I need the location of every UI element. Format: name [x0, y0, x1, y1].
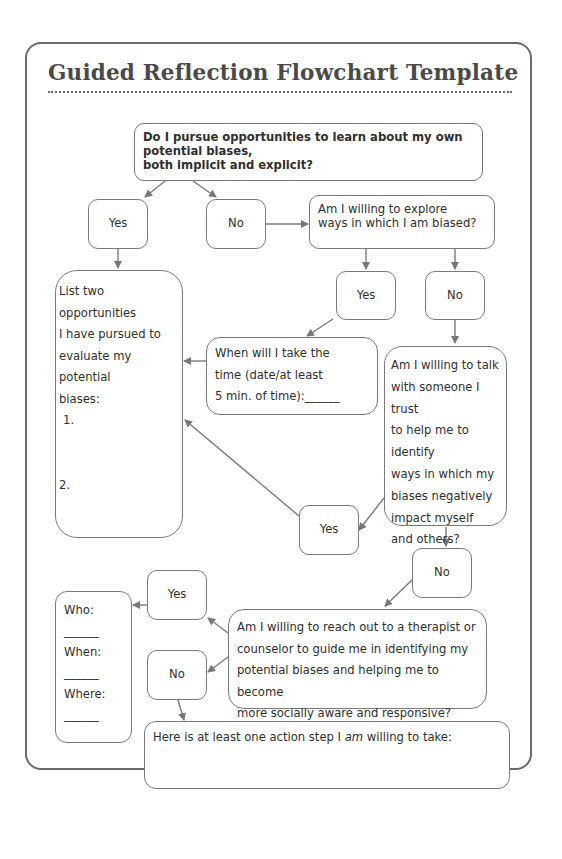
arrow-q1-no [193, 181, 216, 197]
q4-no-box: No [147, 650, 207, 700]
question-1-line1: Do I pursue opportunities to learn about… [143, 131, 476, 159]
q3-line-6: impact myself [391, 508, 500, 530]
q2-yes-label: Yes [357, 289, 376, 303]
arrow-q3yes-list [185, 420, 299, 516]
q1-yes-box: Yes [88, 199, 148, 249]
q3-line-4: ways in which my [391, 464, 500, 486]
q1-no-label: No [228, 217, 244, 231]
action-prefix: Here is at least one action step I [153, 730, 345, 744]
q4-line-3: potential biases and helping me to becom… [237, 660, 480, 703]
question-1-box: Do I pursue opportunities to learn about… [134, 123, 483, 181]
q2-no-label: No [447, 289, 463, 303]
q3-line-2: with someone I trust [391, 377, 500, 421]
where-blank[interactable]: ______ [64, 705, 125, 726]
when-blank[interactable]: ______ [64, 663, 125, 684]
arrow-yes-when [307, 319, 333, 336]
action-step-box[interactable]: Here is at least one action step I am wi… [144, 721, 510, 789]
question-2-line2: ways in which I am biased? [318, 217, 488, 231]
when-line-1: When will I take the [215, 343, 371, 365]
who-when-where-box: Who: ______ When: ______ Where: ______ [55, 591, 132, 743]
list-line-3: evaluate my potential [59, 346, 176, 389]
when-line-2: time (date/at least [215, 365, 371, 387]
question-3-box: Am I willing to talk with someone I trus… [384, 346, 507, 526]
q2-no-box: No [425, 271, 485, 320]
who-label: Who: [64, 600, 125, 621]
list-line-4: biases: [59, 389, 176, 411]
q1-no-box: No [206, 199, 266, 249]
q3-yes-label: Yes [320, 523, 339, 537]
q3-no-box: No [412, 548, 472, 598]
arrow-q1-yes [145, 181, 165, 197]
q3-line-5: biases negatively [391, 486, 500, 508]
opportunities-list-box: List two opportunities I have pursued to… [55, 270, 183, 538]
arrow-q4-no [208, 657, 228, 672]
q3-line-3: to help me to identify [391, 420, 500, 464]
when-box: When will I take the time (date/at least… [206, 337, 378, 415]
q4-line-1: Am I willing to reach out to a therapist… [237, 617, 480, 639]
when-label: When: [64, 642, 125, 663]
q3-yes-box: Yes [299, 505, 359, 555]
question-2-line1: Am I willing to explore [318, 203, 488, 217]
list-item-1: 1. [59, 410, 176, 432]
question-1-line2: both implicit and explicit? [143, 159, 476, 173]
q1-yes-label: Yes [109, 217, 128, 231]
action-emphasis: am [345, 730, 363, 744]
question-2-box: Am I willing to explore ways in which I … [309, 195, 495, 249]
list-line-2: I have pursued to [59, 324, 176, 346]
arrow-no-q4 [385, 580, 412, 606]
question-4-box: Am I willing to reach out to a therapist… [228, 609, 487, 709]
q3-no-label: No [434, 566, 450, 580]
q4-line-2: counselor to guide me in identifying my [237, 639, 480, 661]
q4-yes-label: Yes [168, 588, 187, 602]
q3-line-1: Am I willing to talk [391, 355, 500, 377]
list-item-2: 2. [59, 475, 176, 497]
arrow-q3-yes [359, 498, 384, 530]
arrow-q4-yes [208, 618, 228, 633]
arrow-no-action [178, 700, 184, 720]
action-suffix: willing to take: [363, 730, 452, 744]
q2-yes-box: Yes [336, 271, 396, 320]
who-blank[interactable]: ______ [64, 621, 125, 642]
q4-yes-box: Yes [147, 570, 207, 620]
list-line-1: List two opportunities [59, 281, 176, 324]
where-label: Where: [64, 684, 125, 705]
q4-no-label: No [169, 668, 185, 682]
when-line-3: 5 min. of time):______ [215, 386, 371, 408]
